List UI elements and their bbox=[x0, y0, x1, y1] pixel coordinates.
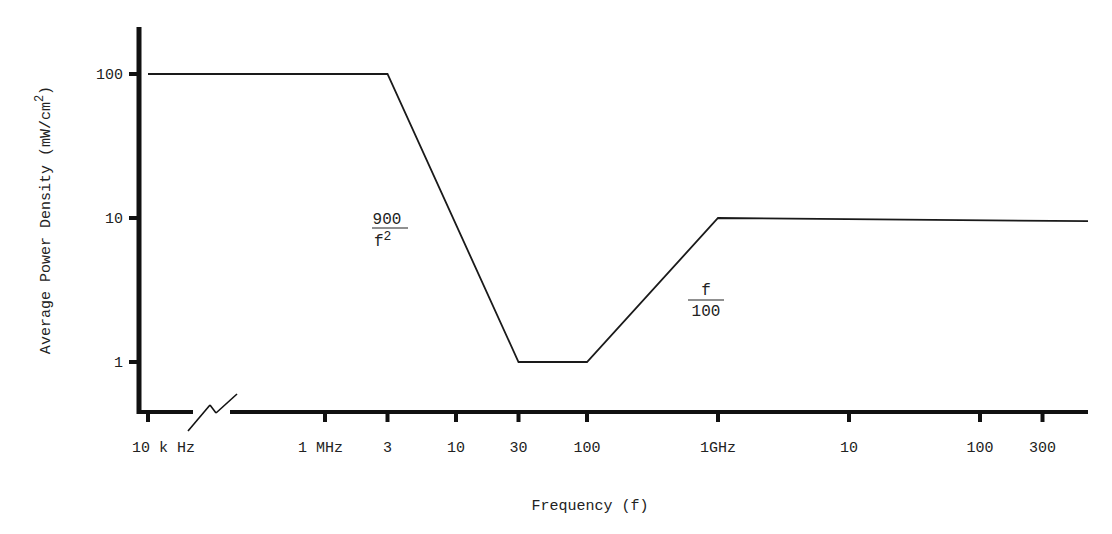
chart-svg: 100101 10 k Hz1 MHz310301001GHz10100300 … bbox=[0, 0, 1112, 534]
annotation-900-over-f-squared: 900 f2 bbox=[372, 211, 408, 251]
x-tick-label: 10 k Hz bbox=[132, 440, 195, 457]
annotation-denominator: 100 bbox=[692, 303, 721, 321]
x-tick-label: 10 bbox=[447, 440, 465, 457]
y-axis-label: Average Power Density (mW/cm2) bbox=[33, 86, 55, 354]
x-tick-label: 100 bbox=[966, 440, 993, 457]
x-tick-label: 100 bbox=[573, 440, 600, 457]
annotation-numerator: f bbox=[701, 282, 711, 300]
axis-break-mark-2 bbox=[210, 405, 216, 413]
x-tick-label: 1GHz bbox=[700, 440, 736, 457]
x-axis-label: Frequency (f) bbox=[531, 498, 648, 515]
y-tick-label: 100 bbox=[96, 67, 123, 84]
x-tick-label: 3 bbox=[383, 440, 392, 457]
y-tick-label: 10 bbox=[105, 211, 123, 228]
series-line bbox=[148, 74, 1088, 362]
x-tick-label: 30 bbox=[509, 440, 527, 457]
y-tick-label: 1 bbox=[114, 355, 123, 372]
x-tick-label: 10 bbox=[840, 440, 858, 457]
axis-break-mark-1 bbox=[188, 405, 210, 431]
annotation-f-over-100: f 100 bbox=[688, 282, 724, 321]
x-tick-label: 300 bbox=[1029, 440, 1056, 457]
annotation-denominator: f2 bbox=[374, 229, 391, 251]
annotation-numerator: 900 bbox=[373, 211, 402, 229]
x-tick-label: 1 MHz bbox=[298, 440, 343, 457]
